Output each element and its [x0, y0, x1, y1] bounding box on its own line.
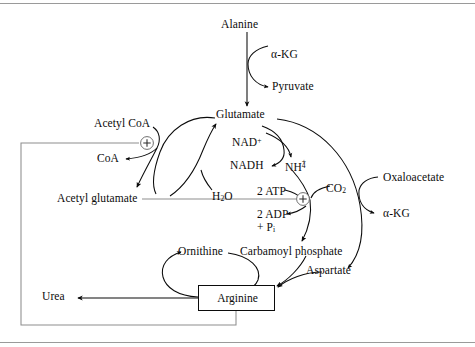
pi-subscript: i: [273, 225, 275, 234]
node-label-arginine: Arginine: [199, 292, 276, 304]
curve-water-in: [201, 170, 212, 190]
node-label-2adp: 2 ADP: [257, 208, 289, 220]
ammonium-charge-stack: +4: [302, 159, 307, 171]
curve-glutamate-to-nadplus: [262, 126, 284, 150]
nad-text: NAD: [232, 136, 257, 148]
node-label-acetyl-coa: Acetyl CoA: [94, 117, 150, 129]
node-label-nadh: NADH: [230, 159, 264, 171]
node-label-2atp: 2 ATP: [257, 185, 286, 197]
node-label-coa: CoA: [97, 152, 119, 164]
node-label-ornithine: Ornithine: [178, 245, 223, 257]
co2-subscript: 2: [342, 186, 346, 195]
node-label-carbamoyl-phosphate: Carbamoyl phosphate: [240, 245, 343, 257]
curve-oxaloacetate-in: [359, 177, 378, 190]
node-label-pyruvate: Pyruvate: [272, 80, 314, 92]
pathway-figure: Alanine α-KG Pyruvate Glutamate Acetyl C…: [0, 0, 475, 347]
arrow-arginine-to-ornithine: [162, 252, 198, 297]
node-label-oxaloacetate: Oxaloacetate: [383, 171, 444, 183]
arrow-transamination-to-pyruvate: [248, 64, 268, 87]
ammonium-base: NH: [285, 161, 302, 173]
curve-akg-into-transamination: [248, 46, 268, 64]
arrow-to-nadh: [272, 150, 284, 166]
node-label-nad-plus: NAD+: [232, 136, 262, 148]
arrow-carbamoylphosphate-to-arginine: [277, 256, 306, 286]
node-label-ammonium: NH+4: [285, 159, 307, 173]
node-label-alanine: Alanine: [221, 18, 258, 30]
node-label-aspartate: Aspartate: [306, 264, 351, 276]
node-label-pi: + Pi: [257, 221, 275, 234]
node-label-co2: CO2: [326, 182, 346, 195]
ammonium-subscript: 4: [302, 162, 306, 170]
pi-prefix: + P: [257, 221, 273, 233]
arginine-box: Arginine: [198, 285, 275, 311]
node-label-acetyl-glutamate: Acetyl glutamate: [57, 192, 137, 204]
arrow-cps-to-carbamoyl-phosphate: [302, 200, 311, 241]
node-label-akg-top: α-KG: [271, 48, 298, 60]
water-tail: O: [224, 190, 232, 202]
arrow-to-2adp-pi: [287, 206, 306, 214]
node-label-urea: Urea: [42, 290, 65, 302]
arc-acetylglutamate-back-to-glutamate: [170, 124, 216, 196]
node-label-akg-right: α-KG: [383, 207, 410, 219]
nad-charge: +: [257, 136, 261, 145]
co2-base: CO: [326, 182, 342, 194]
node-label-water: H2O: [212, 190, 233, 203]
node-label-glutamate: Glutamate: [216, 108, 265, 120]
